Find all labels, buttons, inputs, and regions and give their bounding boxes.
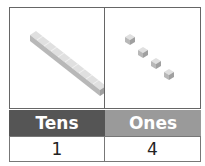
tens-picture-panel bbox=[9, 7, 106, 109]
tens-value: 1 bbox=[9, 136, 105, 162]
ten-rod-icon bbox=[10, 8, 105, 108]
unit-cubes-icon bbox=[105, 8, 200, 108]
tens-header: Tens bbox=[9, 110, 105, 136]
ones-header: Ones bbox=[105, 110, 201, 136]
ones-picture-panel bbox=[104, 7, 201, 109]
ones-value: 4 bbox=[104, 136, 201, 162]
